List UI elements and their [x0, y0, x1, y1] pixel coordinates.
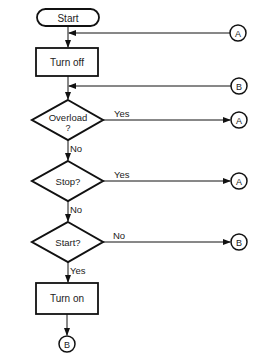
connector-a-stop: A [231, 173, 247, 189]
svg-text:B: B [64, 340, 70, 350]
connector-b-start: B [231, 234, 247, 250]
flowchart-canvas: Start A Turn off B Overload ? Yes A No S… [0, 0, 259, 354]
svg-text:?: ? [65, 123, 70, 133]
overload-decision: Overload ? [32, 100, 103, 140]
start-label: Start [57, 13, 78, 24]
stop-decision: Stop? [32, 161, 103, 201]
svg-text:A: A [235, 29, 241, 39]
svg-text:B: B [236, 238, 242, 248]
start-yes-label: Yes [70, 265, 86, 276]
connector-b-bottom: B [59, 336, 75, 352]
svg-text:A: A [236, 116, 242, 126]
turn-on-process: Turn on [36, 283, 98, 314]
svg-text:B: B [236, 82, 242, 92]
turn-off-label: Turn off [50, 57, 84, 68]
svg-text:Overload: Overload [49, 112, 88, 123]
start-no-label: No [113, 230, 125, 241]
svg-text:Stop?: Stop? [56, 176, 81, 187]
overload-yes-label: Yes [114, 108, 130, 119]
connector-a-overload: A [231, 112, 247, 128]
svg-text:Start?: Start? [55, 237, 80, 248]
turn-on-label: Turn on [50, 293, 84, 304]
turn-off-process: Turn off [36, 48, 98, 76]
connector-a-top: A [69, 25, 246, 41]
start-decision: Start? [32, 222, 103, 262]
start-terminator: Start [37, 9, 99, 26]
stop-no-label: No [70, 204, 82, 215]
connector-b-top: B [69, 78, 247, 94]
svg-text:A: A [236, 177, 242, 187]
overload-no-label: No [70, 143, 82, 154]
stop-yes-label: Yes [114, 169, 130, 180]
